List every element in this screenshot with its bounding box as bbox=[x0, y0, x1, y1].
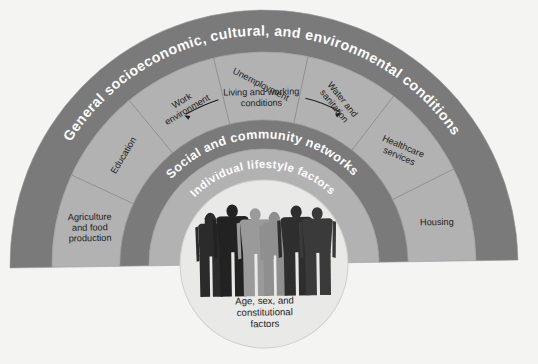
segment-label-text: Housing bbox=[420, 217, 454, 228]
person-leg-left bbox=[305, 251, 317, 295]
rainbow-model-figure: General socioeconomic, cultural, and env… bbox=[0, 0, 538, 364]
person-torso bbox=[302, 218, 333, 253]
person-leg-left bbox=[264, 254, 275, 296]
person-leg-left bbox=[200, 255, 211, 297]
person-leg-right bbox=[319, 251, 331, 295]
segment-agriculture-and-food-production: Agricultureand foodproduction bbox=[68, 212, 112, 244]
determinants-of-health-diagram: General socioeconomic, cultural, and env… bbox=[0, 0, 538, 364]
segment-housing: Housing bbox=[420, 217, 454, 228]
person-leg-left bbox=[243, 252, 255, 296]
segment-label-text: Agricultureand foodproduction bbox=[68, 212, 112, 244]
person-leg-left bbox=[219, 251, 231, 297]
person-leg-left bbox=[284, 251, 296, 296]
